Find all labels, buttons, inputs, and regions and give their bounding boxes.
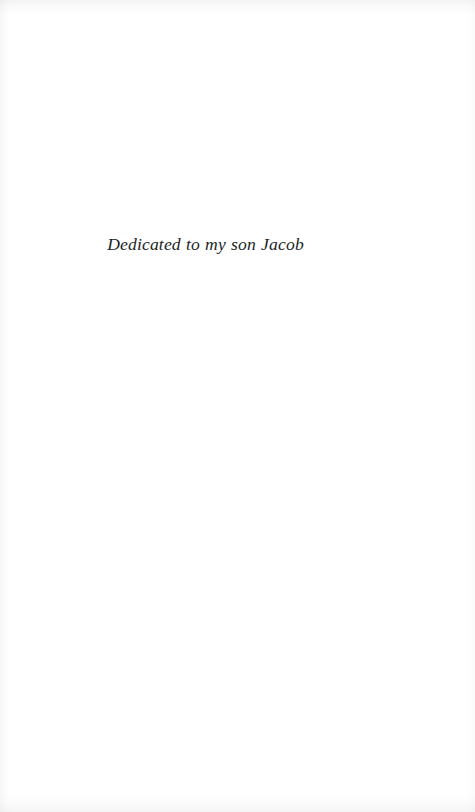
dedication-block: Dedicated to my son Jacob: [0, 232, 411, 256]
scan-edge-bottom: [0, 796, 475, 812]
scan-edge-top: [0, 0, 475, 14]
scan-edge-left: [0, 0, 10, 812]
dedication-page: Dedicated to my son Jacob: [0, 0, 475, 812]
scan-edge-right: [467, 0, 475, 812]
dedication-text: Dedicated to my son Jacob: [107, 232, 304, 256]
